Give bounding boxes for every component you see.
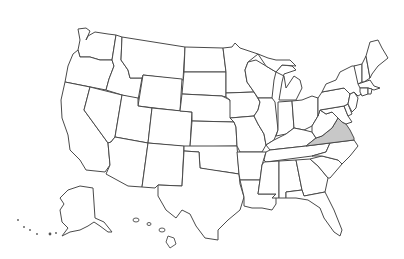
state-montana[interactable] xyxy=(121,37,185,80)
state-kansas[interactable] xyxy=(190,121,237,147)
state-wyoming[interactable] xyxy=(138,75,182,111)
contiguous-states xyxy=(61,28,388,240)
state-michigan[interactable] xyxy=(276,65,302,100)
aleutian-island xyxy=(23,226,25,228)
state-new-mexico[interactable] xyxy=(142,143,184,188)
hawaii-inset xyxy=(133,218,176,248)
state-connecticut[interactable] xyxy=(360,88,368,96)
alaska-inset xyxy=(17,186,112,236)
aleutian-island xyxy=(29,229,31,231)
state-colorado[interactable] xyxy=(148,108,192,147)
us-map xyxy=(0,0,404,259)
state-north-dakota[interactable] xyxy=(184,47,226,72)
state-washington[interactable] xyxy=(78,28,116,60)
state-alaska[interactable] xyxy=(60,186,112,236)
aleutian-island xyxy=(55,232,57,234)
state-hawaii-maui[interactable] xyxy=(159,228,165,232)
state-hawaii-big-island[interactable] xyxy=(166,236,176,248)
aleutian-island xyxy=(49,233,52,236)
state-hawaii-kauai[interactable] xyxy=(133,218,139,222)
state-maine[interactable] xyxy=(366,40,388,78)
state-hawaii-oahu[interactable] xyxy=(147,223,151,226)
state-florida[interactable] xyxy=(286,190,342,236)
state-arizona[interactable] xyxy=(106,137,148,187)
state-rhode-island[interactable] xyxy=(368,88,372,94)
aleutian-island xyxy=(36,233,38,235)
aleutian-island xyxy=(17,219,19,221)
state-south-dakota[interactable] xyxy=(182,72,226,97)
